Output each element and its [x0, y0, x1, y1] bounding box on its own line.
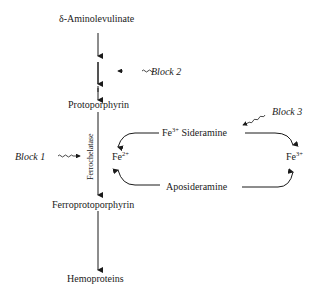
block1-squiggle	[58, 155, 73, 157]
node-fe2: Fe2+	[112, 151, 129, 163]
node-aposideramine: Aposideramine	[166, 181, 227, 193]
pathway-arrows	[0, 0, 324, 300]
node-fe3: Fe3+	[286, 151, 303, 163]
block3-squiggle	[250, 115, 265, 123]
node-hemoproteins: Hemoproteins	[67, 273, 124, 285]
node-aminolevulinate: δ-Aminolevulinate	[59, 13, 134, 25]
block1-label: Block 1	[15, 151, 45, 163]
node-fe3-sideramine: Fe3+ Sideramine	[162, 127, 227, 139]
block2-label: Block 2	[151, 66, 181, 78]
block3-label: Block 3	[272, 106, 302, 118]
enzyme-ferrochelatase: Ferrochelatase	[86, 133, 95, 180]
node-ferroprotoporphyrin: Ferroprotoporphyrin	[52, 199, 134, 211]
node-protoporphyrin: Protoporphyrin	[68, 99, 129, 111]
